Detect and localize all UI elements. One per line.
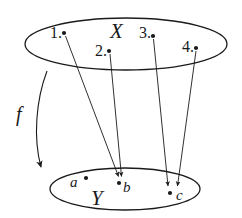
element-label-c: c	[176, 187, 183, 203]
element-label-4: 4.	[182, 38, 194, 55]
element-label-a: a	[70, 174, 78, 190]
element-label-b: b	[123, 179, 131, 195]
mapping-arrow-3-to-c	[154, 39, 169, 186]
element-dot-4	[194, 46, 198, 50]
element-dot-3	[151, 34, 155, 38]
element-dot-1	[62, 31, 66, 35]
mapping-arrow-4-to-c	[178, 51, 197, 186]
function-arrow	[36, 71, 47, 167]
function-label-f: f	[16, 103, 24, 126]
element-label-2: 2.	[95, 42, 107, 59]
set-y-label: Y	[91, 186, 105, 210]
set-x-label: X	[109, 19, 124, 43]
element-label-1: 1.	[50, 24, 62, 41]
element-label-3: 3.	[139, 24, 151, 41]
diagram-canvas: X Y f 1. 2. 3. 4. a b c	[0, 0, 242, 218]
element-dot-c	[168, 191, 172, 195]
element-dot-a	[84, 176, 88, 180]
element-dot-2	[107, 49, 111, 53]
element-dot-b	[117, 181, 121, 185]
function-diagram: X Y f 1. 2. 3. 4. a b c	[0, 0, 242, 218]
